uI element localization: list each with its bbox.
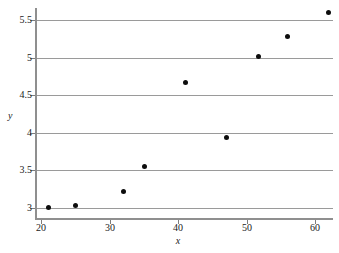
- data-point: [285, 34, 290, 39]
- data-point: [142, 164, 147, 169]
- data-point: [46, 205, 51, 210]
- x-tick-label: 30: [95, 222, 125, 233]
- gridline-y: [36, 20, 333, 21]
- x-tick-label: 40: [163, 222, 193, 233]
- data-point: [326, 10, 331, 15]
- scatter-plot: 33.544.555.5 2030405060 y x: [0, 0, 339, 253]
- y-axis-title: y: [8, 110, 12, 121]
- x-axis-title: x: [163, 235, 193, 246]
- gridline-y: [36, 208, 333, 209]
- x-tick-label: 50: [232, 222, 262, 233]
- gridline-y: [36, 58, 333, 59]
- y-tick-label: 5.5: [6, 15, 32, 25]
- data-point: [224, 135, 229, 140]
- x-tick-label: 60: [300, 222, 330, 233]
- data-point: [183, 80, 188, 85]
- gridline-y: [36, 170, 333, 171]
- y-tick-label: 3.5: [6, 165, 32, 175]
- y-tick-label: 5: [6, 53, 32, 63]
- y-tick-label: 4.5: [6, 90, 32, 100]
- y-tick-label: 3: [6, 203, 32, 213]
- y-axis-line: [35, 8, 37, 218]
- gridline-y: [36, 95, 333, 96]
- x-axis-line: [35, 218, 333, 220]
- gridline-y: [36, 133, 333, 134]
- data-point: [121, 189, 126, 194]
- x-tick-label: 20: [26, 222, 56, 233]
- data-point: [73, 203, 78, 208]
- y-tick-label: 4: [6, 128, 32, 138]
- data-point: [256, 54, 261, 59]
